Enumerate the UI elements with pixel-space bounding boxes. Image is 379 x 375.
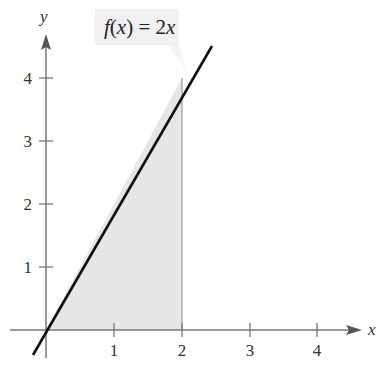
function-label: f(x) = 2x [104, 15, 176, 39]
chart: 1 2 3 4 1 2 3 4 x y f(x) = 2x [0, 0, 379, 375]
x-axis-label: x [367, 320, 376, 339]
y-axis-label: y [38, 7, 48, 26]
y-tick-label: 4 [24, 69, 33, 88]
x-tick-label: 4 [313, 341, 322, 360]
y-tick-label: 3 [24, 132, 33, 151]
shaded-area [46, 78, 182, 330]
x-tick-label: 3 [246, 341, 255, 360]
x-tick-label: 1 [110, 341, 119, 360]
x-tick-label: 2 [178, 341, 187, 360]
y-tick-label: 1 [24, 258, 33, 277]
y-tick-label: 2 [24, 195, 33, 214]
function-label-pointer [168, 45, 186, 70]
